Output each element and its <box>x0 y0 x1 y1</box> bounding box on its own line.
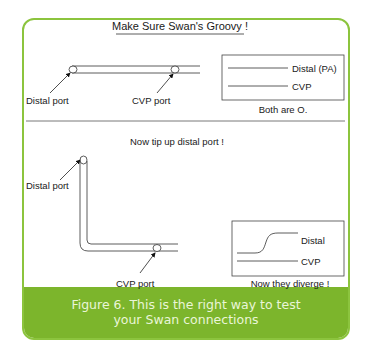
cvp-port-label-bottom: CVP port <box>116 278 155 289</box>
catheter-horizontal <box>69 66 200 73</box>
swan-diagram: Make Sure Swan's Groovy ! Distal port CV… <box>0 0 368 358</box>
diagram-title: Make Sure Swan's Groovy ! <box>112 20 248 32</box>
legend-box-bottom <box>232 221 344 276</box>
legend-label-distal-pa: Distal (PA) <box>292 63 337 74</box>
distal-port-opening-tipped <box>80 156 87 164</box>
legend-label-cvp-top: CVP <box>292 81 312 92</box>
cvp-port-arrow-bottom <box>140 253 155 273</box>
distal-port-opening <box>69 66 77 73</box>
distal-port-arrow-tipped <box>60 160 80 180</box>
distal-port-arrow <box>50 73 70 93</box>
legend-label-cvp-bottom: CVP <box>301 256 321 267</box>
distal-port-label-top: Distal port <box>26 95 69 106</box>
cvp-port-opening <box>171 66 179 73</box>
legend-label-distal-bottom: Distal <box>301 235 325 246</box>
instruction-text: Now tip up distal port ! <box>130 136 224 147</box>
distal-port-label-bottom: Distal port <box>26 180 69 191</box>
legend-box-top <box>222 55 344 100</box>
cvp-port-arrow <box>157 74 173 93</box>
catheter-l-shaped <box>80 156 178 252</box>
cvp-port-opening-bottom <box>153 245 161 252</box>
note-bottom: Now they diverge ! <box>251 278 330 289</box>
cvp-port-label-top: CVP port <box>132 95 171 106</box>
note-top: Both are O. <box>259 104 308 115</box>
